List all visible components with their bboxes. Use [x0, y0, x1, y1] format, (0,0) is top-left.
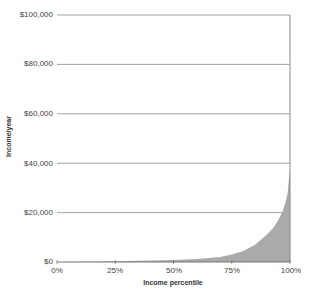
x-axis-title: Income percentile — [118, 279, 228, 286]
plot-area — [0, 0, 309, 290]
x-tick-label: 25% — [100, 266, 130, 275]
y-axis-title: Income/year — [5, 107, 12, 167]
x-tick-label: 75% — [217, 266, 247, 275]
y-tick-label: $100,000 — [3, 10, 53, 19]
x-tick-label: 0% — [42, 266, 72, 275]
income-area — [57, 168, 290, 262]
x-tick-label: 100% — [276, 266, 306, 275]
x-tick-label: 50% — [159, 266, 189, 275]
y-tick-label: $0 — [3, 257, 53, 266]
y-tick-label: $80,000 — [3, 59, 53, 68]
y-tick-label: $20,000 — [3, 208, 53, 217]
income-distribution-chart: $100,000 $80,000 $60,000 $40,000 $20,000… — [0, 0, 309, 290]
